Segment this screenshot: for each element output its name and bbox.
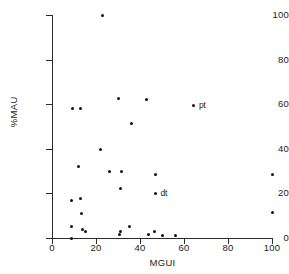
- data-point: [147, 233, 150, 236]
- data-point: [101, 14, 104, 17]
- data-point: [161, 234, 164, 237]
- y-tick-mark: [46, 149, 52, 150]
- x-axis-line: [52, 238, 273, 239]
- data-point-label: pt: [199, 101, 206, 110]
- data-point: [77, 165, 80, 168]
- y-axis-line: [52, 15, 53, 239]
- y-tick-label: 20: [249, 188, 289, 198]
- data-point: [192, 104, 195, 107]
- data-point: [154, 173, 157, 176]
- data-point: [71, 107, 74, 110]
- y-tick-mark: [46, 193, 52, 194]
- data-point: [70, 199, 73, 202]
- x-tick-label: 0: [32, 243, 72, 253]
- data-point: [145, 98, 148, 101]
- data-point-label: dt: [160, 189, 167, 198]
- data-point: [154, 192, 157, 195]
- x-axis-title: MGUI: [52, 258, 273, 268]
- data-point: [119, 230, 122, 233]
- data-point: [79, 107, 82, 110]
- scatter-plot: 020406080100 020406080100 %MAU MGUI dtpt: [0, 0, 289, 274]
- data-point: [119, 187, 122, 190]
- x-tick-label: 20: [76, 243, 116, 253]
- x-tick-label: 100: [252, 243, 289, 253]
- y-tick-label: 60: [249, 99, 289, 109]
- data-point: [70, 225, 73, 228]
- data-point: [174, 234, 177, 237]
- data-point: [118, 233, 121, 236]
- x-tick-label: 40: [120, 243, 160, 253]
- data-point: [130, 122, 133, 125]
- data-point: [153, 230, 156, 233]
- x-tick-label: 80: [208, 243, 248, 253]
- data-point: [271, 173, 274, 176]
- data-point: [117, 97, 120, 100]
- data-point: [271, 211, 274, 214]
- y-tick-mark: [46, 60, 52, 61]
- data-point: [99, 148, 102, 151]
- data-point: [79, 197, 82, 200]
- x-tick-label: 60: [164, 243, 204, 253]
- y-axis-title: %MAU: [9, 82, 19, 142]
- y-tick-mark: [46, 15, 52, 16]
- data-point: [128, 225, 131, 228]
- data-point: [80, 212, 83, 215]
- data-point: [120, 170, 123, 173]
- y-tick-label: 80: [249, 55, 289, 65]
- data-point: [84, 230, 87, 233]
- data-point: [108, 170, 111, 173]
- y-tick-label: 100: [249, 10, 289, 20]
- data-point: [70, 237, 73, 240]
- y-tick-mark: [46, 104, 52, 105]
- y-tick-label: 40: [249, 144, 289, 154]
